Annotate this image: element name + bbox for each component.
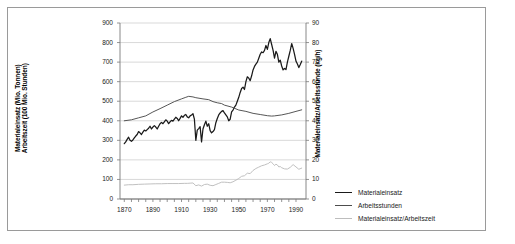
x-tick-label: 1890 [140, 206, 166, 213]
y-tick-label-left: 100 [91, 175, 113, 182]
y-axis-left-title-line1: Materialeinsatz (Mio. Tonnen) [14, 64, 21, 152]
y-tick-label-left: 0 [91, 195, 113, 202]
y-tick-label-left: 700 [91, 58, 113, 65]
y-tick-label-right: 50 [312, 97, 334, 104]
x-tick-label: 1970 [254, 206, 280, 213]
y-tick-label-left: 500 [91, 97, 113, 104]
figure-frame: Materialeinsatz (Mio. Tonnen) Arbeitszei… [7, 7, 486, 231]
legend-swatch-line [335, 205, 352, 206]
x-tick-label: 1930 [197, 206, 223, 213]
legend-label: Materialeinsatz [358, 189, 402, 196]
y-axis-left-title-line2: Arbeitszeit (100 Mio. Stunden) [21, 63, 28, 153]
series-line-materialeinsatz [124, 39, 301, 144]
y-tick-label-right: 30 [312, 136, 334, 143]
y-tick-label-right: 40 [312, 117, 334, 124]
y-tick-label-right: 90 [312, 19, 334, 26]
legend-label: Arbeitsstunden [358, 202, 402, 209]
y-tick-label-left: 800 [91, 39, 113, 46]
legend-item[interactable]: Arbeitsstunden [335, 199, 485, 212]
x-tick-label: 1950 [226, 206, 252, 213]
legend-swatch-line [335, 192, 352, 193]
y-tick-label-right: 80 [312, 39, 334, 46]
y-axis-left-title: Materialeinsatz (Mio. Tonnen) Arbeitszei… [14, 48, 28, 168]
y-tick-label-right: 0 [312, 195, 334, 202]
y-tick-label-left: 200 [91, 156, 113, 163]
y-tick-label-right: 70 [312, 58, 334, 65]
legend-item[interactable]: Materialeinsatz/Arbeitszeit [335, 212, 485, 225]
chart-figure: Materialeinsatz (Mio. Tonnen) Arbeitszei… [8, 8, 487, 232]
series-line-arbeitsstunden [124, 96, 301, 120]
chart-legend: MaterialeinsatzArbeitsstundenMaterialein… [335, 186, 485, 225]
x-tick-label: 1910 [169, 206, 195, 213]
x-tick-label: 1990 [283, 206, 309, 213]
legend-item[interactable]: Materialeinsatz [335, 186, 485, 199]
x-tick-label: 1870 [111, 206, 137, 213]
y-tick-label-right: 10 [312, 175, 334, 182]
legend-label: Materialeinsatz/Arbeitszeit [358, 215, 435, 222]
y-tick-label-left: 900 [91, 19, 113, 26]
legend-swatch-line [335, 218, 352, 219]
y-tick-label-right: 60 [312, 78, 334, 85]
y-tick-label-left: 600 [91, 78, 113, 85]
y-tick-label-left: 400 [91, 117, 113, 124]
y-tick-label-right: 20 [312, 156, 334, 163]
series-line-materialeinsatz-arbeitszeit [124, 162, 301, 186]
y-tick-label-left: 300 [91, 136, 113, 143]
